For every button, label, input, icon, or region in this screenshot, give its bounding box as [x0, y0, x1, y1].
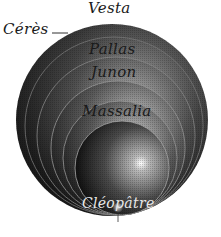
label-cleopatre: Cléopâtre: [82, 196, 155, 210]
label-massalia: Massalia: [82, 104, 152, 119]
label-ceres: Cérès: [3, 22, 49, 37]
label-pallas: Pallas: [89, 42, 135, 57]
asteroid-comparison-figure: Vesta Cérès Pallas Junon Massalia Cléopâ…: [0, 0, 221, 237]
label-vesta: Vesta: [88, 1, 131, 16]
label-junon: Junon: [91, 65, 137, 80]
